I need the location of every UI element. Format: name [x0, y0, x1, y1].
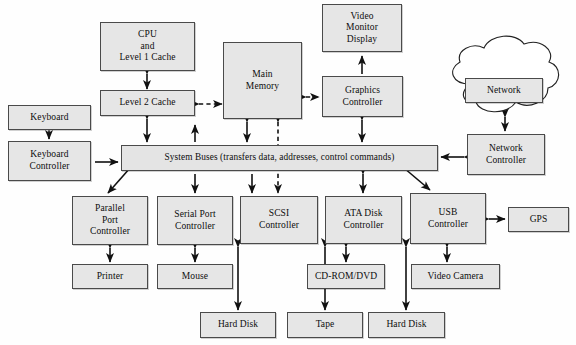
node-cdrom-dvd[interactable]: CD-ROM/DVD [307, 264, 385, 289]
node-system-buses[interactable]: System Buses (transfers data, addresses,… [121, 145, 438, 171]
node-level-2-cache[interactable]: Level 2 Cache [100, 90, 195, 116]
node-keyboard-controller[interactable]: Keyboard Controller [8, 141, 91, 181]
node-hard-disk-scsi[interactable]: Hard Disk [200, 312, 276, 338]
node-video-monitor-display[interactable]: Video Monitor Display [322, 4, 402, 52]
node-cpu[interactable]: CPU and Level 1 Cache [100, 22, 195, 71]
node-scsi-controller[interactable]: SCSI Controller [240, 196, 318, 244]
block-diagram-canvas: CPU and Level 1 Cache Level 2 Cache Main… [0, 0, 576, 345]
node-video-camera[interactable]: Video Camera [411, 264, 500, 289]
node-printer[interactable]: Printer [72, 264, 148, 289]
node-parallel-port-controller[interactable]: Parallel Port Controller [72, 196, 148, 245]
node-hard-disk-ata[interactable]: Hard Disk [368, 312, 445, 338]
node-graphics-controller[interactable]: Graphics Controller [322, 76, 403, 117]
node-network-controller[interactable]: Network Controller [467, 134, 545, 175]
node-tape[interactable]: Tape [287, 312, 363, 338]
node-network[interactable]: Network [465, 78, 543, 103]
node-mouse[interactable]: Mouse [157, 264, 233, 289]
node-ata-disk-controller[interactable]: ATA Disk Controller [325, 196, 402, 244]
node-usb-controller[interactable]: USB Controller [410, 193, 486, 244]
node-main-memory[interactable]: Main Memory [223, 42, 302, 119]
node-gps[interactable]: GPS [508, 207, 569, 232]
node-keyboard[interactable]: Keyboard [8, 105, 91, 130]
node-serial-port-controller[interactable]: Serial Port Controller [157, 196, 233, 245]
